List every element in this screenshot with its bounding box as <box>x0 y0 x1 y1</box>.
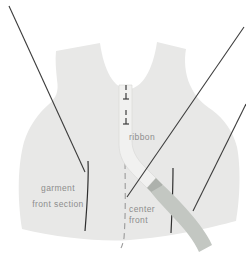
center-front-label: center front <box>129 204 155 226</box>
diagram-canvas <box>0 0 246 257</box>
center-front-label-line2: front <box>129 215 155 226</box>
garment-label-line1: garment <box>16 180 100 196</box>
center-front-label-line1: center <box>129 204 155 215</box>
pattern-diagram: garment front section ribbon center fron… <box>0 0 246 257</box>
garment-label-line2: front section <box>16 196 100 212</box>
ribbon-label: ribbon <box>129 132 155 143</box>
garment-front-section-label: garment front section <box>16 180 100 212</box>
